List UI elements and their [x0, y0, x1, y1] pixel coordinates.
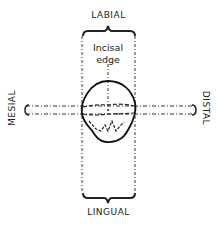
- tooth-orientation-diagram: LABIAL LINGUAL MESIAL DISTAL Incisal edg…: [0, 0, 217, 227]
- labial-brace: [83, 26, 135, 36]
- incisal-edge-label-line1: Incisal: [83, 42, 133, 54]
- center-point: [107, 109, 109, 111]
- lingual-brace: [83, 193, 135, 203]
- mesial-label: MESIAL: [7, 88, 17, 128]
- labial-label: LABIAL: [0, 10, 217, 20]
- incisal-edge-label-line2: edge: [83, 54, 133, 66]
- lingual-label: LINGUAL: [0, 207, 217, 217]
- diagram-drawing: [0, 0, 217, 227]
- tooth-outline: [82, 81, 136, 142]
- cingulum-zigzag: [89, 121, 124, 131]
- incisal-edge-label: Incisal edge: [83, 42, 133, 66]
- distal-label: DISTAL: [201, 88, 211, 128]
